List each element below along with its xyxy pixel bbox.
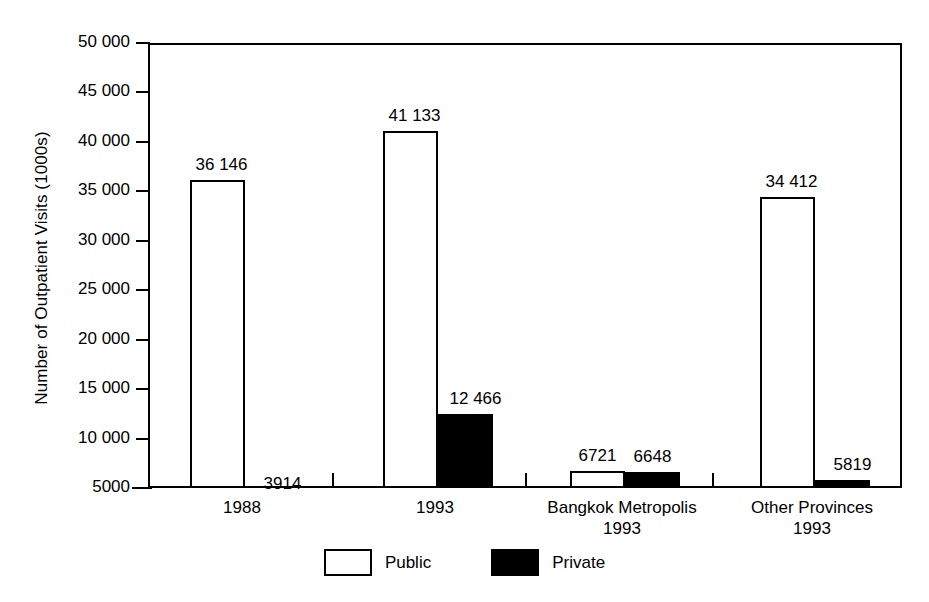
y-axis-tick-label: 50 000 [6, 32, 130, 52]
bar-label-public-0: 36 146 [152, 155, 292, 175]
y-axis-tick-label: 40 000 [6, 131, 130, 151]
y-axis-tick-label: 10 000 [6, 428, 130, 448]
bar-public-3 [760, 197, 815, 488]
x-axis-group-label-line: 1993 [682, 518, 929, 539]
legend-label-public: Public [385, 553, 431, 573]
bar-public-1 [383, 131, 438, 488]
y-axis-tick-label: 25 000 [6, 279, 130, 299]
y-axis-title: Number of Outpatient Visits (1000s) [32, 58, 52, 478]
y-axis-tick-label: 5000 [6, 477, 130, 497]
bar-public-2 [570, 471, 625, 488]
x-axis-separator-tick [525, 473, 527, 488]
x-axis-separator-tick [712, 473, 714, 488]
bar-label-private-1: 12 466 [406, 389, 546, 409]
bar-label-public-1: 41 133 [345, 106, 485, 126]
y-axis-tick-label: 20 000 [6, 329, 130, 349]
bar-label-private-0: 3914 [213, 474, 353, 494]
legend-label-private: Private [552, 553, 605, 573]
x-axis-group-label-line: Other Provinces [682, 497, 929, 518]
bar-label-public-3: 34 412 [722, 172, 862, 192]
y-axis-tick-label: 15 000 [6, 378, 130, 398]
y-axis-tick-label: 30 000 [6, 230, 130, 250]
legend-swatch-public-icon [324, 549, 372, 576]
y-axis-tick-label: 35 000 [6, 180, 130, 200]
bar-label-private-3: 5819 [783, 455, 923, 475]
x-axis-group-label-3: Other Provinces1993 [682, 497, 929, 539]
bar-label-private-2: 6648 [583, 447, 723, 467]
legend-item-public: Public [324, 549, 431, 576]
bar-private-3 [815, 480, 870, 488]
bar-chart-figure: Number of Outpatient Visits (1000s) 50 0… [0, 0, 929, 602]
chart-legend: Public Private [0, 549, 929, 576]
bar-public-0 [190, 180, 245, 488]
bar-private-2 [625, 472, 680, 488]
legend-item-private: Private [491, 549, 605, 576]
bar-private-1 [438, 414, 493, 488]
y-axis-tick-label: 45 000 [6, 81, 130, 101]
legend-swatch-private-icon [491, 549, 539, 576]
